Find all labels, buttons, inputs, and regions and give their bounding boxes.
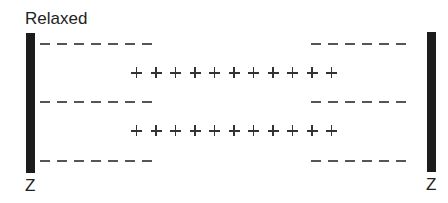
dash-symbol — [345, 101, 355, 103]
plus-symbol — [326, 125, 337, 137]
dash-symbol — [91, 43, 101, 45]
dash-symbol — [125, 160, 135, 162]
dash-symbol — [142, 43, 152, 45]
thin-filament-left-row-1 — [40, 38, 152, 50]
dash-symbol — [362, 43, 372, 45]
plus-symbol — [170, 67, 181, 79]
right-z-label: Z — [426, 176, 436, 194]
dash-symbol — [362, 101, 372, 103]
right-z-disc — [427, 32, 436, 172]
dash-symbol — [396, 101, 406, 103]
dash-symbol — [379, 160, 389, 162]
dash-symbol — [125, 101, 135, 103]
left-z-label: Z — [25, 177, 35, 195]
plus-symbol — [248, 125, 259, 137]
plus-symbol — [268, 67, 279, 79]
dash-symbol — [396, 43, 406, 45]
dash-symbol — [108, 43, 118, 45]
plus-symbol — [287, 67, 298, 79]
dash-symbol — [345, 160, 355, 162]
dash-symbol — [40, 43, 50, 45]
dash-symbol — [108, 160, 118, 162]
dash-symbol — [311, 101, 321, 103]
plus-symbol — [209, 125, 220, 137]
dash-symbol — [362, 160, 372, 162]
dash-symbol — [379, 43, 389, 45]
dash-symbol — [142, 101, 152, 103]
dash-symbol — [57, 101, 67, 103]
thin-filament-right-row-3 — [311, 155, 406, 167]
dash-symbol — [125, 43, 135, 45]
plus-symbol — [170, 125, 181, 137]
dash-symbol — [396, 160, 406, 162]
plus-symbol — [326, 67, 337, 79]
dash-symbol — [311, 160, 321, 162]
dash-symbol — [328, 160, 338, 162]
plus-symbol — [190, 125, 201, 137]
dash-symbol — [74, 160, 84, 162]
plus-symbol — [151, 125, 162, 137]
thin-filament-right-row-1 — [311, 38, 406, 50]
plus-symbol — [248, 67, 259, 79]
dash-symbol — [91, 101, 101, 103]
thin-filament-left-row-2 — [40, 96, 152, 108]
thin-filament-right-row-2 — [311, 96, 406, 108]
dash-symbol — [142, 160, 152, 162]
dash-symbol — [345, 43, 355, 45]
plus-symbol — [287, 125, 298, 137]
dash-symbol — [74, 43, 84, 45]
thick-filament-row-1 — [131, 67, 337, 79]
thick-filament-row-2 — [131, 125, 337, 137]
plus-symbol — [307, 67, 318, 79]
dash-symbol — [328, 43, 338, 45]
plus-symbol — [131, 67, 142, 79]
dash-symbol — [40, 101, 50, 103]
dash-symbol — [74, 101, 84, 103]
plus-symbol — [268, 125, 279, 137]
dash-symbol — [311, 43, 321, 45]
dash-symbol — [40, 160, 50, 162]
plus-symbol — [229, 67, 240, 79]
plus-symbol — [229, 125, 240, 137]
plus-symbol — [151, 67, 162, 79]
plus-symbol — [307, 125, 318, 137]
dash-symbol — [57, 43, 67, 45]
dash-symbol — [328, 101, 338, 103]
left-z-disc — [26, 33, 35, 173]
dash-symbol — [379, 101, 389, 103]
dash-symbol — [57, 160, 67, 162]
thin-filament-left-row-3 — [40, 155, 152, 167]
plus-symbol — [131, 125, 142, 137]
diagram-title: Relaxed — [25, 9, 87, 29]
dash-symbol — [91, 160, 101, 162]
dash-symbol — [108, 101, 118, 103]
plus-symbol — [190, 67, 201, 79]
plus-symbol — [209, 67, 220, 79]
